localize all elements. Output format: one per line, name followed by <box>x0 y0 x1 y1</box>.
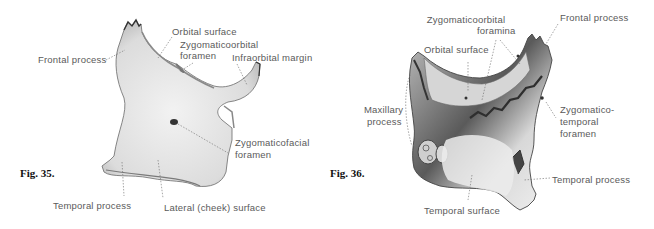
fig36-label-zygomaticoorbital-foramina-line2: foramina <box>477 25 516 36</box>
fig36-label-zygomaticoorbital-foramina-line1: Zygomaticoorbital <box>416 14 516 25</box>
fig35-label-temporal-process: Temporal process <box>53 200 131 211</box>
fig35-label-lateral-cheek-surface: Lateral (cheek) surface <box>164 202 266 213</box>
fig35-label-zygomaticoorbital-foramen-line2: foramen <box>180 50 216 61</box>
fig35-label-infraorbital-margin: Infraorbital margin <box>232 52 312 63</box>
fig35-label-zygomaticofacial-foramen-line2: foramen <box>235 149 271 160</box>
fig36-label-zygomaticotemporal-foramen-line2: temporal <box>560 116 599 127</box>
fig35-label-frontal-process: Frontal process <box>38 54 106 65</box>
fig36-caption: Fig. 36. <box>330 167 365 179</box>
fig36-label-maxillary-process-line2: process <box>367 116 402 127</box>
fig36-label-maxillary-process-line1: Maxillary <box>364 104 403 115</box>
fig35-caption: Fig. 35. <box>20 167 55 179</box>
fig36-label-frontal-process: Frontal process <box>560 12 628 23</box>
fig36-label-zygomaticotemporal-foramen-line1: Zygomatico- <box>560 104 614 115</box>
fig36-label-temporal-process: Temporal process <box>552 174 630 185</box>
bone-illustrations <box>0 0 654 229</box>
fig35-label-zygomaticoorbital-foramen-line1: Zygomaticoorbital <box>180 39 258 50</box>
fig36-label-zygomaticotemporal-foramen-line3: foramen <box>560 128 596 139</box>
fig36-zygomatic-bone <box>409 34 552 210</box>
fig36-label-temporal-surface: Temporal surface <box>424 205 500 216</box>
anatomy-figure-plate: Fig. 35. Frontal process Orbital surface… <box>0 0 654 229</box>
fig35-label-orbital-surface: Orbital surface <box>172 26 237 37</box>
fig35-label-zygomaticofacial-foramen-line1: Zygomaticofacial <box>235 137 309 148</box>
fig36-label-orbital-surface: Orbital surface <box>424 44 489 55</box>
